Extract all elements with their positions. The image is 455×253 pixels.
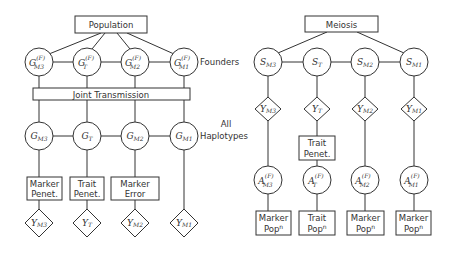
a-node-t: A(F)T [303,166,331,194]
founder-node-t: G(F)T [73,48,101,76]
obs-node-m1: YM1 [170,209,198,237]
right-obs-node-m2: YM2 [352,97,378,121]
obs-node-m3: YM3 [25,209,53,237]
marker-error-node: Marker Error [111,177,159,200]
founders-label: Founders [200,57,240,67]
all-label: All [221,119,232,129]
right-trait-penet-node: Trait Penet. [299,136,335,160]
haplotypes-label: Haplotypes [200,131,249,141]
marker-pop-node-m2: Marker Popn [347,211,384,235]
diagram-canvas: Population G(F)M3 G(F)T G(F)M2 G(F)M1 Fo… [0,0,455,253]
haplotype-node-m1: GM1 [170,122,198,150]
haplotype-node-m2: GM2 [121,122,149,150]
founder-node-m3: G(F)M3 [25,48,53,76]
svg-text:Trait: Trait [307,213,327,223]
marker-pop-node-m3: Marker Popn [256,211,291,235]
obs-node-m2: YM2 [121,209,149,237]
marker-pop-node-m1: Marker Popn [396,211,431,235]
svg-text:Trait: Trait [307,138,327,148]
a-node-m1: A(F)M1 [400,166,428,194]
svg-text:Marker: Marker [120,179,150,189]
svg-text:Trait: Trait [77,179,97,189]
svg-text:Marker: Marker [259,213,289,223]
population-label: Population [89,20,134,30]
joint-transmission-node: Joint Transmission [33,88,190,100]
s-node-t: ST [303,48,331,76]
marker-penet-node: Marker Penet. [27,177,62,200]
meiosis-label: Meiosis [326,20,358,30]
trait-penet-node: Trait Penet. [70,177,104,200]
joint-transmission-label: Joint Transmission [72,90,149,100]
right-obs-node-t: YT [304,97,330,121]
right-obs-node-m1: YM1 [401,97,427,121]
haplotype-node-t: GT [73,122,101,150]
svg-text:Marker: Marker [399,213,429,223]
haplotype-node-m3: GM3 [25,122,53,150]
svg-text:Error: Error [125,189,146,199]
svg-text:Penet.: Penet. [304,149,331,159]
s-node-m2: SM2 [351,48,379,76]
a-node-m2: A(F)M2 [351,166,379,194]
obs-node-t: YT [73,209,101,237]
population-node: Population [75,16,147,33]
left-panel: Population G(F)M3 G(F)T G(F)M2 G(F)M1 Fo… [25,16,249,237]
svg-text:Marker: Marker [30,179,60,189]
svg-text:Marker: Marker [351,213,381,223]
trait-pop-node: Trait Popn [299,211,335,235]
s-node-m3: SM3 [254,48,282,76]
founder-node-m2: G(F)M2 [121,48,149,76]
meiosis-node: Meiosis [305,16,378,32]
a-node-m3: A(F)M3 [254,166,282,194]
s-node-m1: SM1 [400,48,428,76]
svg-text:Penet.: Penet. [31,189,58,199]
right-panel: Meiosis SM3 ST SM2 SM1 YM3 YT [254,16,431,235]
founder-node-m1: G(F)M1 [170,48,198,76]
right-obs-node-m3: YM3 [255,97,281,121]
svg-text:Penet.: Penet. [74,189,101,199]
